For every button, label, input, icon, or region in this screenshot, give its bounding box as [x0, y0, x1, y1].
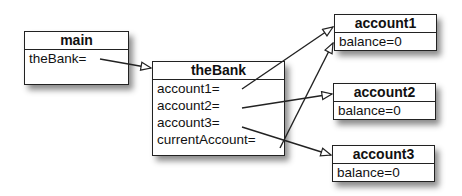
object-account2: account2 balance=0	[333, 83, 436, 120]
field-balance: balance=0	[335, 33, 436, 50]
field-account2: account2=	[153, 97, 284, 114]
object-title: account2	[334, 84, 435, 102]
field-account1: account1=	[153, 80, 284, 97]
field-theBank: theBank=	[25, 50, 128, 67]
field-balance: balance=0	[333, 164, 434, 181]
object-account1: account1 balance=0	[334, 14, 437, 51]
object-account3: account3 balance=0	[332, 145, 435, 182]
field-balance: balance=0	[334, 102, 435, 119]
field-currentAccount: currentAccount=	[153, 131, 284, 148]
object-title: account3	[333, 146, 434, 164]
arrow-currentAccount	[280, 43, 333, 148]
object-title: theBank	[153, 62, 284, 80]
object-title: main	[25, 32, 128, 50]
object-title: account1	[335, 15, 436, 33]
object-main: main theBank=	[24, 31, 129, 85]
object-theBank: theBank account1= account2= account3= cu…	[152, 61, 285, 156]
field-account3: account3=	[153, 114, 284, 131]
